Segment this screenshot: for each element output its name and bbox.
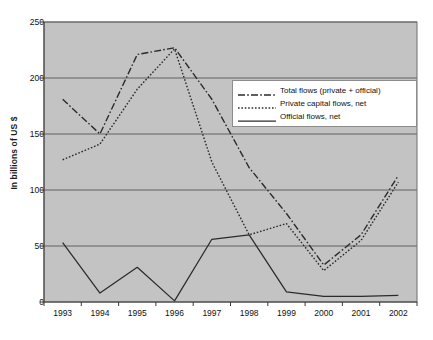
solid-line-icon [237,112,277,122]
x-axis-tick-label: 1998 [231,308,268,318]
chart-legend: Total flows (private + official)Private … [232,80,417,127]
x-axis-tick-label: 2001 [342,308,379,318]
dotted-line-icon [237,99,277,109]
dash-dot-line-icon [237,86,277,96]
x-axis-tick-label: 1999 [268,308,305,318]
x-axis-tick-label: 2000 [305,308,342,318]
x-axis-tick-label: 2002 [380,308,417,318]
legend-item: Official flows, net [237,110,411,123]
legend-item: Private capital flows, net [237,97,411,110]
legend-item: Total flows (private + official) [237,84,411,97]
plot-background [44,22,417,302]
plot-area [0,0,433,340]
legend-label: Total flows (private + official) [280,86,381,96]
x-axis-tick-label: 1997 [193,308,230,318]
x-axis-tick-label: 1993 [44,308,81,318]
x-axis-tick-label: 1996 [156,308,193,318]
x-axis-tick-label: 1994 [81,308,118,318]
x-axis-tick-label: 1995 [119,308,156,318]
line-chart: In billions of US $ 050100150200250 1993… [0,0,433,340]
legend-label: Official flows, net [280,112,340,122]
legend-label: Private capital flows, net [280,99,366,109]
